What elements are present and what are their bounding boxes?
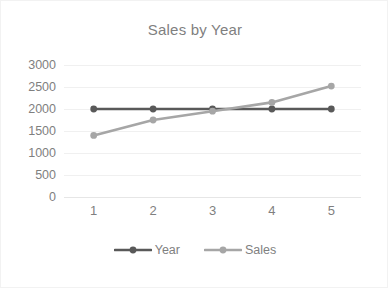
y-tick-label: 0 [10, 190, 56, 204]
chart-legend: YearSales [1, 243, 388, 257]
legend-marker-icon [204, 244, 242, 256]
legend-label: Sales [245, 243, 276, 257]
data-point-marker [150, 106, 157, 113]
legend-entry-year[interactable]: Year [114, 243, 180, 257]
plot-area [64, 65, 361, 197]
y-tick-label: 2000 [10, 102, 56, 116]
data-point-marker [150, 117, 157, 124]
x-axis-line [64, 197, 361, 198]
y-tick-label: 3000 [10, 58, 56, 72]
legend-label: Year [155, 243, 180, 257]
legend-entry-sales[interactable]: Sales [204, 243, 276, 257]
chart-title: Sales by Year [1, 21, 388, 38]
x-tick-label: 4 [257, 203, 287, 218]
y-tick-label: 500 [10, 168, 56, 182]
y-tick-label: 2500 [10, 80, 56, 94]
y-tick-label: 1000 [10, 146, 56, 160]
chart-container: Sales by Year 050010001500200025003000 1… [0, 0, 388, 288]
series-lines [64, 65, 361, 197]
x-tick-label: 5 [316, 203, 346, 218]
data-point-marker [269, 106, 276, 113]
x-tick-label: 1 [79, 203, 109, 218]
x-tick-label: 2 [138, 203, 168, 218]
legend-marker-icon [114, 244, 152, 256]
x-tick-label: 3 [198, 203, 228, 218]
data-point-marker [90, 106, 97, 113]
y-tick-label: 1500 [10, 124, 56, 138]
data-point-marker [328, 83, 335, 90]
data-point-marker [328, 106, 335, 113]
data-point-marker [209, 108, 216, 115]
data-point-marker [90, 132, 97, 139]
data-point-marker [269, 99, 276, 106]
